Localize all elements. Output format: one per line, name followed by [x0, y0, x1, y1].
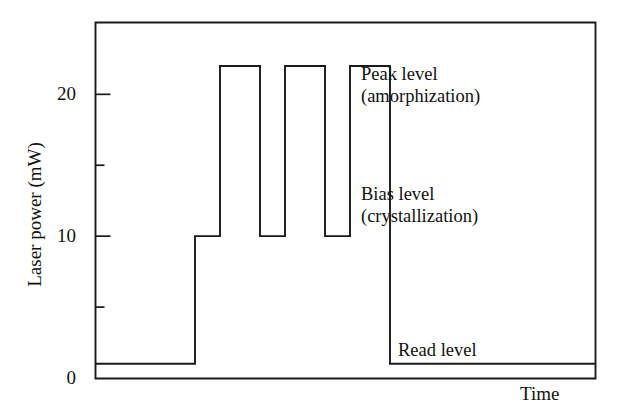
x-axis-title: Time	[520, 384, 559, 403]
y-axis-tick-label-20: 20	[42, 84, 76, 103]
annotation-bias-level-line2: (crystallization)	[361, 206, 478, 228]
annotation-read-level-line1: Read level	[398, 340, 477, 362]
laser-power-waveform-figure: 20 10 0 Laser power (mW) Time Peak level…	[0, 0, 623, 412]
annotation-bias-level-line1: Bias level	[361, 184, 478, 206]
plot-area	[0, 0, 623, 412]
annotation-read-level: Read level	[398, 340, 477, 362]
y-axis-tick-label-10: 10	[42, 226, 76, 245]
annotation-peak-level-line2: (amorphization)	[361, 86, 480, 108]
y-axis-tick-label-0: 0	[48, 368, 76, 387]
annotation-peak-level: Peak level (amorphization)	[361, 64, 480, 108]
waveform-trace	[95, 66, 595, 364]
plot-frame-border	[96, 23, 596, 379]
y-axis-title: Laser power (mW)	[25, 100, 44, 330]
annotation-bias-level: Bias level (crystallization)	[361, 184, 478, 228]
annotation-peak-level-line1: Peak level	[361, 64, 480, 86]
